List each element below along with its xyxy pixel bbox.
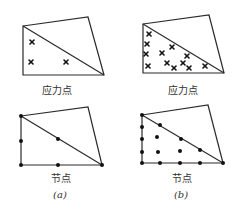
panel-b-nodes — [140, 105, 225, 165]
quad-element-outline — [23, 17, 104, 75]
panel-a-stress — [23, 17, 104, 75]
stress-point-cross-icon — [30, 40, 34, 44]
node-dot — [100, 163, 104, 167]
stress-point-cross-icon — [160, 51, 164, 55]
panel-b-stress — [143, 15, 224, 73]
stress-point-cross-icon — [172, 66, 176, 70]
label-stress-points-a: 应力点 — [42, 84, 72, 96]
node-dot — [178, 149, 182, 153]
node-dot — [140, 113, 144, 117]
stress-point-cross-icon — [146, 64, 150, 68]
stress-point-cross-icon — [185, 54, 189, 58]
stress-point-cross-icon — [147, 32, 151, 36]
quad-element-outline — [21, 107, 102, 165]
stress-point-cross-icon — [145, 42, 149, 46]
diagonal-line — [143, 24, 224, 73]
label-nodes-a: 节点 — [51, 173, 71, 184]
node-dot — [140, 125, 144, 129]
node-dot — [198, 161, 202, 165]
node-dot — [19, 163, 23, 167]
stress-point-cross-icon — [187, 66, 191, 70]
node-dot — [56, 163, 60, 167]
stress-point-cross-icon — [64, 60, 68, 64]
stress-point-cross-icon — [170, 45, 174, 49]
node-dot — [155, 135, 159, 139]
stress-point-cross-icon — [165, 61, 169, 65]
quad-element-outline — [142, 105, 223, 163]
node-dot — [179, 137, 183, 141]
node-dot — [140, 137, 144, 141]
label-stress-points-b: 应力点 — [168, 84, 198, 96]
caption-b: (b) — [174, 189, 188, 200]
label-nodes-b: 节点 — [172, 173, 192, 184]
stress-point-cross-icon — [203, 64, 207, 68]
node-dot — [140, 150, 144, 154]
node-dot — [56, 137, 60, 141]
panel-a-nodes — [19, 107, 104, 167]
stress-point-cross-icon — [144, 52, 148, 56]
stress-point-cross-icon — [29, 60, 33, 64]
diagonal-line — [23, 26, 104, 75]
node-dot — [140, 161, 144, 165]
node-dot — [158, 123, 162, 127]
node-dot — [19, 139, 23, 143]
caption-a: (a) — [53, 189, 67, 200]
element-diagram: 应力点 应力点 节点 节点 (a) (b) — [0, 0, 239, 212]
stress-point-cross-icon — [181, 61, 185, 65]
node-dot — [178, 161, 182, 165]
node-dot — [221, 161, 225, 165]
node-dot — [19, 114, 23, 118]
node-dot — [156, 150, 160, 154]
diagonal-line — [21, 116, 102, 165]
node-dot — [158, 161, 162, 165]
node-dot — [198, 148, 202, 152]
